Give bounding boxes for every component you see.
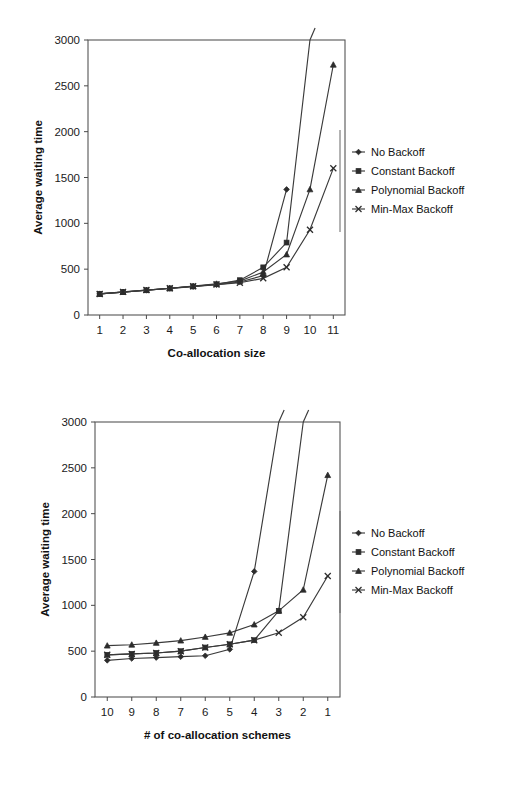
series-group (104, 410, 331, 663)
legend-marker (352, 206, 365, 212)
x-tick-label: 10 (304, 324, 317, 336)
legend-item[interactable]: Min-Max Backoff (352, 203, 454, 215)
plot-frame (88, 40, 345, 315)
data-point (284, 240, 289, 245)
legend: No BackoffConstant BackoffPolynomial Bac… (340, 130, 465, 232)
legend-item[interactable]: Polynomial Backoff (352, 184, 465, 196)
x-tick-label: 8 (153, 706, 159, 718)
y-axis-title: Average waiting time (32, 120, 44, 235)
data-point (178, 654, 184, 660)
legend-marker (352, 169, 365, 174)
data-point (251, 622, 257, 627)
x-axis: 10987654321 (101, 697, 331, 718)
x-tick-label: 5 (227, 706, 233, 718)
y-tick-label: 0 (74, 309, 80, 321)
series (97, 62, 336, 297)
x-tick-label: 6 (213, 324, 219, 336)
y-tick-label: 500 (68, 645, 87, 657)
data-point (284, 264, 290, 270)
y-tick-label: 2000 (54, 126, 80, 138)
y-tick-label: 1500 (61, 554, 87, 566)
y-tick-label: 3000 (54, 34, 80, 46)
legend-item[interactable]: No Backoff (352, 527, 426, 539)
x-tick-label: 9 (283, 324, 289, 336)
legend-item[interactable]: No Backoff (352, 146, 426, 158)
y-tick-label: 2500 (54, 80, 80, 92)
series (97, 165, 337, 297)
y-tick-label: 2000 (61, 508, 87, 520)
y-tick-label: 1000 (61, 599, 87, 611)
data-point (307, 186, 313, 191)
data-point (330, 62, 336, 67)
x-axis: 1234567891011 (96, 315, 339, 336)
x-tick-label: 6 (202, 706, 208, 718)
legend-item-label: Polynomial Backoff (371, 184, 465, 196)
legend-item-label: Min-Max Backoff (371, 203, 454, 215)
data-point (104, 658, 110, 664)
y-tick-label: 1000 (54, 217, 80, 229)
legend-item-label: Polynomial Backoff (371, 565, 465, 577)
x-tick-label: 1 (96, 324, 102, 336)
legend-item[interactable]: Constant Backoff (352, 546, 456, 558)
data-point (202, 653, 208, 659)
series (104, 410, 284, 663)
x-tick-label: 3 (276, 706, 282, 718)
legend-marker (352, 550, 365, 555)
y-tick-label: 3000 (61, 416, 87, 428)
data-point (284, 252, 290, 257)
data-point (300, 614, 306, 620)
legend-item-label: Constant Backoff (371, 165, 456, 177)
x-axis-title: # of co-allocation schemes (144, 729, 291, 741)
data-point (307, 227, 313, 233)
legend-marker (352, 568, 365, 573)
data-point (251, 569, 257, 575)
x-tick-label: 2 (120, 324, 126, 336)
legend: No BackoffConstant BackoffPolynomial Bac… (340, 511, 465, 613)
chart-svg: 0500100015002000250030001234567891011Co-… (0, 0, 513, 396)
chart-co-allocation-schemes: 05001000150020002500300010987654321# of … (0, 385, 513, 785)
series (104, 573, 331, 658)
x-tick-label: 5 (190, 324, 196, 336)
y-tick-label: 0 (81, 691, 87, 703)
data-point (325, 573, 331, 579)
x-tick-label: 2 (300, 706, 306, 718)
data-point (330, 165, 336, 171)
legend-marker (352, 149, 365, 155)
y-axis-title: Average waiting time (39, 502, 51, 617)
y-tick-label: 2500 (61, 462, 87, 474)
legend-marker (352, 530, 365, 536)
data-point (300, 587, 306, 592)
data-point (356, 550, 361, 555)
series (97, 28, 315, 296)
y-tick-label: 1500 (54, 172, 80, 184)
series-group (97, 28, 337, 297)
legend-item-label: No Backoff (371, 527, 426, 539)
x-tick-label: 7 (237, 324, 243, 336)
data-point (284, 187, 290, 193)
chart-co-allocation-size: 0500100015002000250030001234567891011Co-… (0, 0, 513, 396)
data-point (227, 647, 233, 653)
data-point (325, 472, 331, 477)
data-point (356, 149, 362, 155)
data-point (356, 530, 362, 536)
series (105, 410, 309, 657)
chart-svg: 05001000150020002500300010987654321# of … (0, 385, 513, 785)
data-point (356, 169, 361, 174)
legend-item[interactable]: Min-Max Backoff (352, 584, 454, 596)
legend-item-label: Constant Backoff (371, 546, 456, 558)
x-tick-label: 10 (101, 706, 114, 718)
x-tick-label: 11 (327, 324, 339, 336)
y-axis: 050010001500200025003000 (61, 416, 95, 703)
legend-item-label: Min-Max Backoff (371, 584, 454, 596)
x-axis-title: Co-allocation size (168, 347, 266, 359)
x-tick-label: 1 (325, 706, 331, 718)
legend-marker (352, 587, 365, 593)
x-tick-label: 8 (260, 324, 266, 336)
legend-item[interactable]: Constant Backoff (352, 165, 456, 177)
x-tick-label: 4 (251, 706, 258, 718)
legend-item[interactable]: Polynomial Backoff (352, 565, 465, 577)
legend-item-label: No Backoff (371, 146, 426, 158)
y-tick-label: 500 (61, 263, 80, 275)
data-point (276, 630, 282, 636)
x-tick-label: 3 (143, 324, 149, 336)
